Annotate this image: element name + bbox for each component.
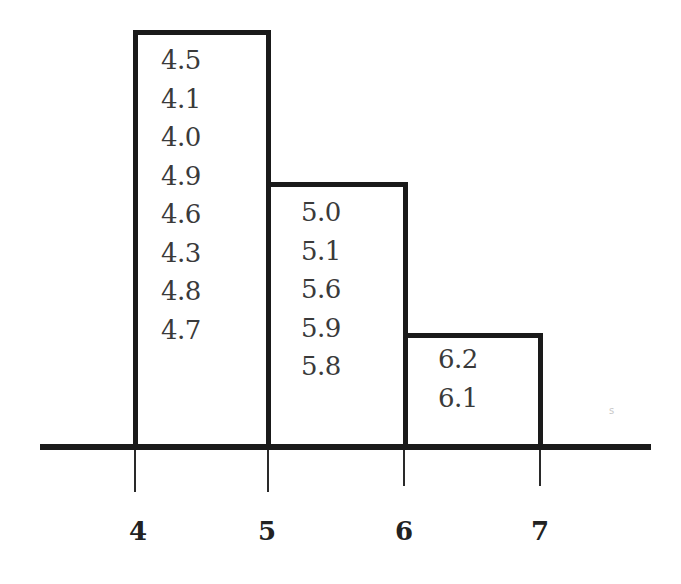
histogram-bar-6-7: 6.2 6.1 — [403, 333, 543, 447]
bar-values-list: 5.0 5.1 5.6 5.9 5.8 — [301, 193, 341, 386]
data-value: 4.3 — [161, 234, 201, 273]
x-tick-4 — [134, 450, 136, 492]
data-value: 5.1 — [301, 232, 341, 271]
data-value: 5.8 — [301, 347, 341, 386]
data-value: 4.7 — [161, 311, 201, 350]
x-tick-7 — [539, 450, 541, 486]
data-value: 4.1 — [161, 80, 201, 119]
x-tick-label: 7 — [520, 516, 560, 546]
data-value: 6.2 — [438, 340, 478, 379]
x-tick-label: 4 — [118, 516, 158, 546]
x-tick-label: 6 — [384, 516, 424, 546]
x-tick-6 — [403, 450, 405, 486]
data-value: 4.5 — [161, 41, 201, 80]
data-value: 5.9 — [301, 309, 341, 348]
data-value: 5.6 — [301, 270, 341, 309]
bar-values-list: 6.2 6.1 — [438, 340, 478, 417]
x-axis-line — [40, 444, 651, 450]
histogram-bar-5-6: 5.0 5.1 5.6 5.9 5.8 — [266, 182, 408, 447]
x-tick-label: 5 — [247, 516, 287, 546]
data-value: 4.8 — [161, 272, 201, 311]
histogram-bar-4-5: 4.5 4.1 4.0 4.9 4.6 4.3 4.8 4.7 — [133, 30, 271, 447]
data-value: 4.6 — [161, 195, 201, 234]
x-tick-5 — [267, 450, 269, 492]
data-value: 5.0 — [301, 193, 341, 232]
data-value: 6.1 — [438, 379, 478, 418]
data-value: 4.0 — [161, 118, 201, 157]
histogram-chart: 4.5 4.1 4.0 4.9 4.6 4.3 4.8 4.7 5.0 5.1 … — [0, 0, 681, 584]
bar-values-list: 4.5 4.1 4.0 4.9 4.6 4.3 4.8 4.7 — [161, 41, 201, 349]
scan-artifact: s — [609, 405, 614, 416]
data-value: 4.9 — [161, 157, 201, 196]
